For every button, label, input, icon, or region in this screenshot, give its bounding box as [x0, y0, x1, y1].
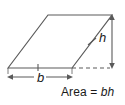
area-formula-prefix: Area = [61, 85, 101, 99]
area-formula-variables: bh [101, 85, 115, 99]
height-arrow-bottom [109, 63, 115, 69]
parallelogram-figure: h b Area = bh [0, 0, 125, 105]
height-label: h [99, 31, 106, 44]
parallelogram-outline [8, 15, 112, 68]
base-arrow-right [67, 74, 73, 79]
base-arrow-left [7, 74, 13, 79]
base-label: b [37, 71, 44, 84]
right-side-tick-mark [88, 38, 96, 45]
area-formula-label: Area = bh [61, 86, 114, 98]
